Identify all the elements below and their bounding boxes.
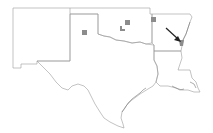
pointer-arrow-icon [166, 28, 178, 39]
county-marker-ok-small [120, 26, 125, 31]
state-arkansas [152, 14, 192, 51]
county-marker-tx-panhandle [82, 30, 87, 35]
state-new-mexico [13, 8, 70, 68]
county-marker-ok-central [125, 20, 130, 25]
texas-coastline-detail [122, 88, 146, 112]
state-louisiana [154, 51, 200, 92]
louisiana-coastline-detail [172, 82, 196, 90]
state-texas [37, 14, 158, 128]
state-oklahoma [70, 8, 152, 44]
map [0, 0, 213, 133]
county-marker-ok-northeast [151, 17, 156, 22]
